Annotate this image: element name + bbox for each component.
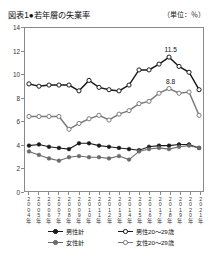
data-point bbox=[127, 158, 131, 162]
data-point bbox=[67, 83, 71, 87]
data-point bbox=[57, 146, 61, 150]
data-point bbox=[97, 144, 101, 148]
x-tick-label: 2016年 bbox=[147, 196, 152, 222]
data-point bbox=[147, 68, 151, 72]
data-point bbox=[167, 86, 171, 90]
y-tick-label: 12 bbox=[13, 47, 20, 54]
legend-item[interactable]: 女性計 bbox=[48, 238, 84, 247]
legend-item[interactable]: 女性20～29歳 bbox=[118, 238, 174, 247]
legend-item[interactable]: 男性20～29歳 bbox=[118, 227, 174, 236]
chart-header: 図表1●若年層の失業率 （単位：％） bbox=[0, 0, 213, 26]
x-tick-label: 2008年 bbox=[66, 196, 71, 222]
legend-marker-icon bbox=[118, 228, 133, 235]
x-tick-mark bbox=[190, 192, 191, 195]
data-point bbox=[107, 88, 111, 92]
data-point bbox=[47, 114, 51, 118]
x-tick-label: 2009年 bbox=[76, 196, 81, 222]
data-point bbox=[27, 114, 31, 118]
x-tick-mark bbox=[109, 192, 110, 195]
data-point bbox=[87, 78, 91, 82]
data-point bbox=[187, 70, 191, 74]
x-tick-label: 2015年 bbox=[137, 196, 142, 222]
y-tick-label: 2 bbox=[16, 165, 20, 172]
data-point bbox=[177, 91, 181, 95]
series-filled-circle bbox=[27, 141, 201, 152]
data-point bbox=[187, 144, 191, 148]
data-point bbox=[147, 147, 151, 151]
plot-area: 11.58.8 bbox=[24, 27, 204, 192]
chart-legend: 男性計女性計男性20～29歳女性20～29歳 bbox=[0, 226, 213, 252]
figure-container: 図表1●若年層の失業率 （単位：％） 02468101214 11.58.8 2… bbox=[0, 0, 213, 255]
y-tick-label: 8 bbox=[16, 94, 20, 101]
unit-label: （単位：％） bbox=[163, 9, 205, 19]
data-point bbox=[97, 155, 101, 159]
x-tick-mark bbox=[38, 192, 39, 195]
data-point bbox=[67, 147, 71, 151]
legend-label: 女性計 bbox=[66, 238, 84, 247]
x-tick-mark bbox=[28, 192, 29, 195]
data-point bbox=[197, 113, 201, 117]
y-tick-label: 4 bbox=[16, 141, 20, 148]
data-point bbox=[47, 83, 51, 87]
y-tick-label: 0 bbox=[16, 189, 20, 196]
data-point bbox=[187, 90, 191, 94]
legend-item[interactable]: 男性計 bbox=[48, 227, 84, 236]
data-point bbox=[167, 144, 171, 148]
x-tick-label: 2013年 bbox=[116, 196, 121, 222]
data-point bbox=[37, 114, 41, 118]
data-point bbox=[177, 64, 181, 68]
x-tick-label: 2020年 bbox=[187, 196, 192, 222]
series-open-circle bbox=[27, 86, 201, 131]
x-axis: 2004年2005年2006年2007年2008年2009年2010年2011年… bbox=[24, 192, 204, 224]
x-tick-mark bbox=[129, 192, 130, 195]
data-point bbox=[107, 157, 111, 161]
data-point bbox=[167, 55, 171, 59]
data-point bbox=[107, 145, 111, 149]
x-tick-mark bbox=[160, 192, 161, 195]
x-tick-label: 2004年 bbox=[25, 196, 30, 222]
x-tick-mark bbox=[48, 192, 49, 195]
data-point bbox=[37, 143, 41, 147]
x-tick-label: 2018年 bbox=[167, 196, 172, 222]
data-point bbox=[137, 150, 141, 154]
data-point bbox=[77, 141, 81, 145]
data-point bbox=[97, 85, 101, 89]
data-point bbox=[27, 144, 31, 148]
x-tick-mark bbox=[139, 192, 140, 195]
page-title: 図表1●若年層の失業率 bbox=[8, 8, 91, 20]
data-point bbox=[37, 153, 41, 157]
data-point bbox=[157, 91, 161, 95]
data-point bbox=[137, 68, 141, 72]
data-point bbox=[167, 147, 171, 151]
x-tick-mark bbox=[119, 192, 120, 195]
data-label: 8.8 bbox=[166, 78, 175, 85]
data-point bbox=[117, 89, 121, 93]
series-filled-circle bbox=[27, 144, 201, 163]
x-tick-label: 2014年 bbox=[127, 196, 132, 222]
data-point bbox=[197, 88, 201, 92]
y-tick-label: 14 bbox=[13, 24, 20, 31]
data-point bbox=[57, 114, 61, 118]
data-point bbox=[157, 62, 161, 66]
data-label: 11.5 bbox=[164, 46, 176, 53]
data-point bbox=[37, 84, 41, 88]
x-tick-label: 2019年 bbox=[177, 196, 182, 222]
legend-label: 女性20～29歳 bbox=[136, 238, 174, 247]
data-point bbox=[77, 121, 81, 125]
legend-marker-icon bbox=[48, 239, 63, 246]
data-point bbox=[67, 127, 71, 131]
legend-marker-icon bbox=[48, 228, 63, 235]
data-point bbox=[77, 89, 81, 93]
data-point bbox=[57, 159, 61, 163]
data-point bbox=[87, 141, 91, 145]
series-line bbox=[29, 143, 199, 150]
data-point bbox=[127, 83, 131, 87]
y-tick-label: 10 bbox=[13, 71, 20, 78]
x-tick-label: 2005年 bbox=[35, 196, 40, 222]
x-tick-label: 2011年 bbox=[96, 196, 101, 222]
data-point bbox=[27, 150, 31, 154]
y-axis: 02468101214 bbox=[0, 27, 24, 192]
x-tick-mark bbox=[149, 192, 150, 195]
x-tick-label: 2010年 bbox=[86, 196, 91, 222]
data-point bbox=[97, 113, 101, 117]
